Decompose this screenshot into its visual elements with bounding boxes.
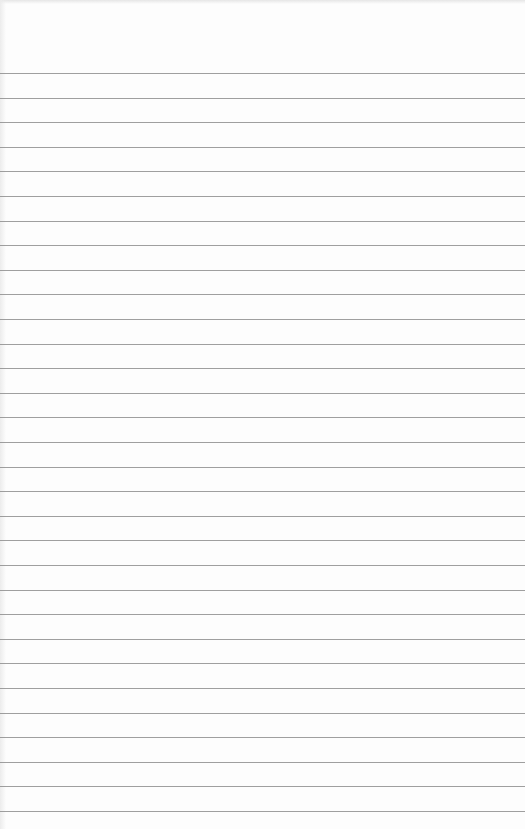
page-top-edge [0,0,525,4]
ruled-line [0,663,525,664]
ruled-line [0,467,525,468]
ruled-line [0,540,525,541]
ruled-line [0,73,525,74]
ruled-line [0,590,525,591]
ruled-line [0,98,525,99]
ruled-line [0,614,525,615]
ruled-line [0,688,525,689]
ruled-line [0,368,525,369]
ruled-line [0,762,525,763]
ruled-line [0,245,525,246]
ruled-line [0,122,525,123]
ruled-line [0,713,525,714]
ruled-line [0,737,525,738]
ruled-line [0,516,525,517]
ruled-line [0,171,525,172]
ruled-line [0,786,525,787]
ruled-line [0,344,525,345]
ruled-line [0,294,525,295]
ruled-line [0,393,525,394]
ruled-line [0,565,525,566]
ruled-line [0,196,525,197]
ruled-line [0,319,525,320]
ruled-line [0,270,525,271]
ruled-line [0,417,525,418]
ruled-line [0,442,525,443]
ruled-line [0,147,525,148]
page-left-shade [0,0,6,829]
ruled-line [0,639,525,640]
ruled-line [0,811,525,812]
lined-paper-page [0,0,525,829]
ruled-line [0,491,525,492]
ruled-line [0,221,525,222]
